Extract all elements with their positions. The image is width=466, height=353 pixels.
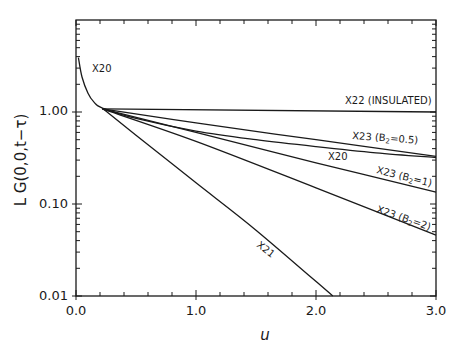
curve-label-x22: X22 (INSULATED) — [345, 95, 432, 106]
curve-x23-b2-1 — [102, 109, 436, 192]
axis-ticks — [72, 20, 436, 300]
curve-label-x23-b2-0.5: X23 (B2=0.5) — [352, 130, 419, 148]
x-axis-title: u — [260, 326, 270, 344]
curve-label-x20-mid: X20 — [328, 151, 348, 162]
curve-x22-insulated — [102, 109, 436, 112]
y-tick-label: 0.10 — [39, 196, 68, 211]
curve-label-x23-b2-2: X23 (B2=2) — [375, 203, 433, 234]
x-tick-label: 1.0 — [186, 303, 207, 318]
x-tick-label: 2.0 — [306, 303, 327, 318]
y-tick-label: 1.00 — [39, 103, 68, 118]
chart: 0.0 1.0 2.0 3.0 0.01 0.10 1.00 u L G(0,0… — [0, 0, 466, 353]
curve-label-x21: X21 — [255, 239, 277, 260]
x-tick-label: 3.0 — [426, 303, 447, 318]
curve-x21 — [102, 108, 332, 296]
plot-frame — [76, 20, 436, 296]
curves — [78, 58, 436, 296]
y-tick-label: 0.01 — [39, 288, 68, 303]
curve-label-x23-b2-1: X23 (B2=1) — [375, 164, 433, 190]
curve-label-x20: X20 — [92, 63, 112, 74]
y-axis-title: L G(0,0,t−τ) — [12, 114, 30, 207]
x-tick-label: 0.0 — [66, 303, 87, 318]
